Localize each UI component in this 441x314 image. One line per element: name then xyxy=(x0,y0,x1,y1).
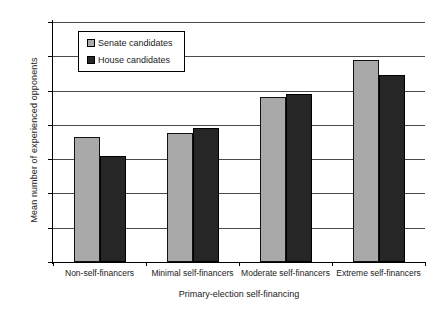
legend-label-senate: Senate candidates xyxy=(98,38,173,48)
y-axis-title: Mean number of experienced opponents xyxy=(29,40,39,240)
bar-senate xyxy=(260,97,286,262)
bar-house xyxy=(379,75,405,262)
x-tick-mark xyxy=(53,262,54,266)
x-tick-label: Extreme self-financers xyxy=(332,268,425,278)
gridline xyxy=(53,22,425,23)
bar-house xyxy=(100,156,126,262)
legend-label-house: House candidates xyxy=(98,55,170,65)
bar-senate xyxy=(167,133,193,262)
legend-item-senate: Senate candidates xyxy=(87,38,173,48)
legend-item-house: House candidates xyxy=(87,55,170,65)
bar-senate xyxy=(353,60,379,262)
bar-chart: Mean number of experienced opponents 00.… xyxy=(0,0,441,314)
x-tick-label: Non-self-financers xyxy=(53,268,146,278)
legend: Senate candidates House candidates xyxy=(78,31,185,72)
x-tick-mark xyxy=(332,262,333,266)
legend-swatch-senate-icon xyxy=(87,39,95,47)
bar-house xyxy=(193,128,219,262)
bar-senate xyxy=(74,137,100,262)
x-tick-mark xyxy=(425,262,426,266)
x-tick-mark xyxy=(239,262,240,266)
x-axis-title: Primary-election self-financing xyxy=(53,289,425,299)
legend-swatch-house-icon xyxy=(87,56,95,64)
x-tick-mark xyxy=(146,262,147,266)
x-tick-label: Minimal self-financers xyxy=(146,268,239,278)
x-tick-label: Moderate self-financers xyxy=(239,268,332,278)
bar-house xyxy=(286,94,312,262)
